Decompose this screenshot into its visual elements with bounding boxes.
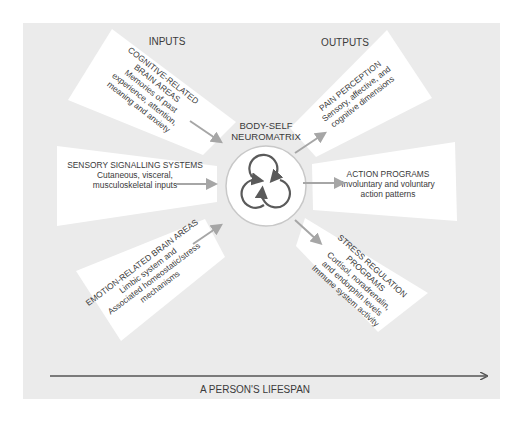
action-title: ACTION PROGRAMS	[347, 169, 430, 179]
action-desc-line2: action patterns	[361, 189, 416, 199]
outputs-header: OUTPUTS	[321, 37, 369, 48]
sensory-desc-line1: Cutaneous, visceral,	[97, 170, 173, 180]
sensory-title: SENSORY SIGNALLING SYSTEMS	[67, 160, 203, 170]
neuromatrix-circle-icon	[226, 146, 306, 226]
inputs-header: INPUTS	[149, 36, 186, 47]
lifespan-label: A PERSON'S LIFESPAN	[200, 384, 310, 395]
center-title-line2: NEUROMATRIX	[231, 131, 301, 142]
neuromatrix-diagram: INPUTS OUTPUTS COGNITIVE-RELATED BRAIN A…	[0, 0, 532, 423]
action-desc-line1: Involuntary and voluntary	[341, 179, 435, 189]
center-title-line1: BODY-SELF	[240, 120, 293, 131]
sensory-desc-line2: musculoskeletal inputs	[93, 180, 177, 190]
